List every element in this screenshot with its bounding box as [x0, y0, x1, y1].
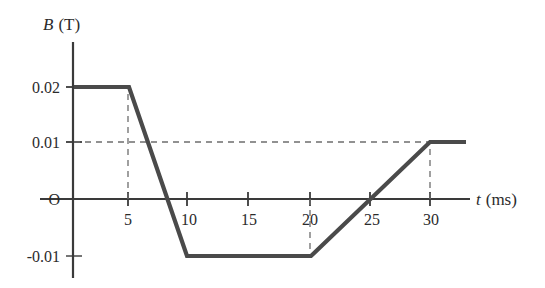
- data-line-b-of-t: [74, 87, 466, 256]
- x-tick-label-25: 25: [364, 211, 380, 228]
- x-axis-title-unit: (ms): [486, 190, 517, 209]
- x-tick-label-15: 15: [241, 211, 257, 228]
- y-tick-label-0.01: 0.01: [32, 134, 60, 151]
- y-tick-label-0.02: 0.02: [32, 79, 60, 96]
- origin-label: O: [48, 191, 60, 208]
- x-axis-title: t(ms): [476, 190, 517, 209]
- x-tick-label-5: 5: [124, 211, 132, 228]
- y-axis-title: B(T): [43, 15, 80, 34]
- x-axis-title-variable: t: [476, 190, 482, 209]
- chart-canvas: B(T) t(ms) 0.02 0.01 O -0.01 5 10 15 20 …: [0, 0, 545, 288]
- x-tick-label-30: 30: [423, 211, 439, 228]
- x-tick-label-10: 10: [181, 211, 197, 228]
- x-tick-label-20: 20: [302, 211, 318, 228]
- magnetic-field-vs-time-chart: B(T) t(ms) 0.02 0.01 O -0.01 5 10 15 20 …: [0, 0, 545, 288]
- y-axis-title-variable: B: [43, 15, 54, 34]
- y-axis-title-unit: (T): [58, 15, 80, 34]
- y-tick-label-minus-0.01: -0.01: [27, 248, 60, 265]
